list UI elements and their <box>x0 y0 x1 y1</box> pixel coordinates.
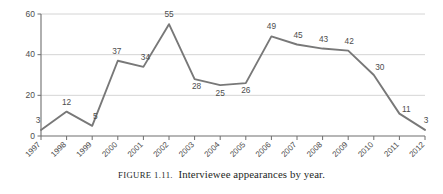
y-tick-label-20: 20 <box>26 90 36 100</box>
x-tick-label-2006: 2006 <box>254 140 273 159</box>
x-tick-label-2002: 2002 <box>151 140 170 159</box>
x-tick-label-1998: 1998 <box>49 140 68 159</box>
data-label-2005: 26 <box>241 85 251 95</box>
x-tick-label-1997: 1997 <box>23 140 42 159</box>
figure-caption-text: Interviewee appearances by year. <box>178 168 324 180</box>
data-point-labels: 31253734552825264945434230113 <box>36 9 429 125</box>
data-label-2007: 45 <box>293 30 303 40</box>
data-label-2012: 3 <box>424 115 429 125</box>
chart-svg: 0204060 19971998199920002001200220032004… <box>0 0 443 165</box>
data-label-2011: 11 <box>402 104 411 114</box>
x-tick-label-2010: 2010 <box>356 140 375 159</box>
y-tick-labels: 0204060 <box>26 9 36 141</box>
data-label-2002: 55 <box>164 9 174 19</box>
x-tick-label-2000: 2000 <box>100 140 119 159</box>
data-label-2001: 34 <box>141 52 151 62</box>
x-tick-label-2003: 2003 <box>177 140 196 159</box>
y-tick-label-40: 40 <box>26 49 36 59</box>
figure-container: 0204060 19971998199920002001200220032004… <box>0 0 443 194</box>
data-series <box>41 24 425 130</box>
y-tick-label-60: 60 <box>26 9 36 19</box>
x-tick-label-2001: 2001 <box>126 140 145 159</box>
data-label-1997: 3 <box>36 115 41 125</box>
x-tick-labels: 1997199819992000200120022003200420052006… <box>23 140 426 159</box>
x-tick-label-2012: 2012 <box>407 140 426 159</box>
data-label-2003: 28 <box>192 81 202 91</box>
gridlines <box>41 14 425 95</box>
data-label-1998: 12 <box>62 97 72 107</box>
data-label-2010: 30 <box>375 62 385 72</box>
y-tick-label-0: 0 <box>30 131 35 141</box>
x-tick-label-2009: 2009 <box>331 140 350 159</box>
x-tick-label-2008: 2008 <box>305 140 324 159</box>
x-tick-label-2005: 2005 <box>228 140 247 159</box>
data-label-1999: 5 <box>93 111 98 121</box>
data-label-2004: 25 <box>216 88 226 98</box>
x-axis <box>41 136 425 140</box>
data-label-2000: 37 <box>112 46 122 56</box>
data-label-2006: 49 <box>267 21 277 31</box>
x-tick-label-1999: 1999 <box>75 140 94 159</box>
data-label-2009: 42 <box>345 36 355 46</box>
figure-caption-label: FIGURE 1.11. <box>118 170 173 180</box>
series-line-interviewee-appearances <box>41 24 425 130</box>
x-tick-label-2011: 2011 <box>382 140 401 159</box>
data-label-2008: 43 <box>319 34 329 44</box>
x-tick-label-2007: 2007 <box>279 140 298 159</box>
line-chart: 0204060 19971998199920002001200220032004… <box>0 0 443 165</box>
x-tick-label-2004: 2004 <box>203 140 222 159</box>
figure-caption: FIGURE 1.11. Interviewee appearances by … <box>0 168 443 180</box>
